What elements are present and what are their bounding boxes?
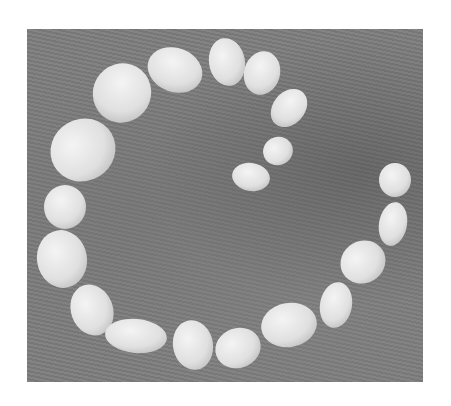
pebble — [375, 200, 410, 248]
pebble — [32, 226, 91, 292]
pebble — [44, 185, 86, 229]
pebble — [259, 133, 297, 170]
pebble — [104, 316, 169, 355]
pebble — [379, 163, 411, 197]
pebble — [239, 47, 285, 99]
pebble — [205, 35, 249, 89]
pebble — [258, 298, 321, 351]
pebbles — [0, 0, 451, 406]
pebble — [230, 160, 272, 194]
pebble — [141, 40, 209, 100]
pebble — [169, 317, 217, 373]
pebble — [316, 280, 356, 331]
pebble — [210, 321, 267, 374]
